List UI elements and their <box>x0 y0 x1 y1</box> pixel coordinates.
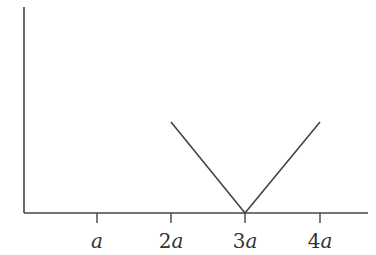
chart-canvas <box>0 0 376 255</box>
x-tick-label: 4a <box>308 229 333 253</box>
x-tick-label: 2a <box>159 229 184 253</box>
x-tick-label: a <box>91 229 103 253</box>
v-shape-line <box>171 122 320 213</box>
x-tick-label: 3a <box>233 229 258 253</box>
